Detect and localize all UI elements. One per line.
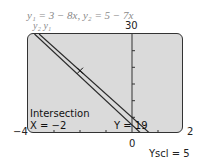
yscl-label: Yscl = 5 (149, 148, 190, 159)
intersection-y: Y = 19 (114, 120, 148, 131)
intersection-x: X = −2 (30, 120, 66, 131)
xmax-label: 2 (187, 126, 193, 137)
ymax-label: 30 (125, 20, 138, 31)
xmin-label: −4 (13, 126, 28, 137)
line-labels: y₂ y₁ (33, 20, 51, 31)
intersection-cursor (77, 68, 83, 74)
origin-label: 0 (129, 138, 135, 149)
calculator-screen: Intersection X = −2 Y = 19 (27, 33, 183, 133)
intersection-title: Intersection (30, 108, 90, 119)
